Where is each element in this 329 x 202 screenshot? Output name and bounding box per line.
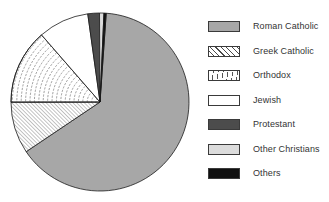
legend-label-other-christians: Other Christians: [253, 145, 320, 154]
legend-swatch-protestant: [208, 119, 240, 130]
legend-swatch-others: [208, 168, 240, 179]
legend-item-greek-catholic: Greek Catholic: [208, 45, 320, 58]
legend-swatch-jewish: [208, 95, 240, 106]
legend-label-others: Others: [253, 169, 281, 178]
legend-swatch-roman-catholic: [208, 21, 240, 32]
pie-chart: [0, 0, 205, 202]
legend-swatch-greek-catholic: [208, 46, 240, 57]
legend-label-orthodox: Orthodox: [253, 71, 291, 80]
legend-label-jewish: Jewish: [253, 96, 281, 105]
legend: Roman Catholic Greek Catholic Orthodox J…: [208, 20, 320, 180]
legend-item-orthodox: Orthodox: [208, 69, 320, 82]
legend-label-roman-catholic: Roman Catholic: [253, 22, 318, 31]
legend-item-protestant: Protestant: [208, 118, 320, 131]
legend-item-roman-catholic: Roman Catholic: [208, 20, 320, 33]
legend-item-others: Others: [208, 167, 320, 180]
legend-label-greek-catholic: Greek Catholic: [253, 47, 314, 56]
legend-swatch-other-christians: [208, 144, 240, 155]
legend-swatch-orthodox: [208, 70, 240, 81]
legend-item-jewish: Jewish: [208, 94, 320, 107]
legend-label-protestant: Protestant: [253, 120, 295, 129]
legend-item-other-christians: Other Christians: [208, 143, 320, 156]
figure: Roman Catholic Greek Catholic Orthodox J…: [0, 0, 329, 202]
